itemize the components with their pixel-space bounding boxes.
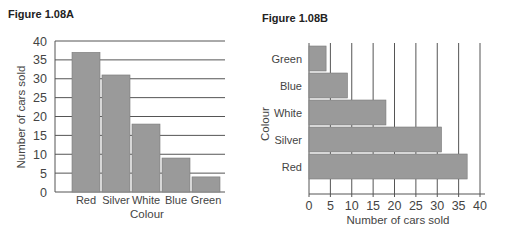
y-tick-label: Green [271,53,302,65]
y-tick-label: White [274,107,302,119]
x-tick-label: 20 [388,199,402,213]
figure-b-horizontal-bar-chart: 0510152025303540GreenBlueWhiteSilverRedN… [0,0,506,235]
x-tick-label: 15 [366,199,380,213]
y-tick-label: Silver [274,134,302,146]
bar-white [309,100,386,125]
x-tick-label: 5 [327,199,334,213]
x-tick-label: 10 [345,199,359,213]
x-tick-label: 0 [306,199,313,213]
y-tick-label: Red [282,161,302,173]
x-tick-label: 35 [452,199,466,213]
x-tick-label: 40 [473,199,487,213]
y-tick-label: Blue [280,80,302,92]
bar-silver [309,127,442,152]
bar-red [309,154,467,179]
bar-green [309,46,326,71]
bar-blue [309,73,347,98]
y-axis-title: Colour [259,107,271,141]
x-tick-label: 25 [409,199,423,213]
x-axis-title: Number of cars sold [347,214,450,226]
x-tick-label: 30 [430,199,444,213]
